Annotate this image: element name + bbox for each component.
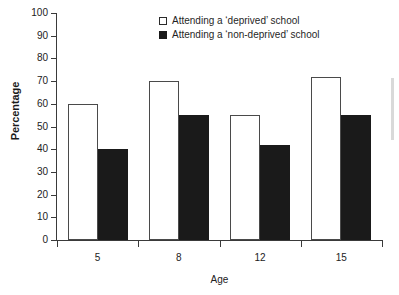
x-axis-tick-label: 8 [149, 252, 209, 263]
bar-15-series1 [311, 77, 341, 240]
x-axis-tick [382, 241, 383, 247]
y-axis-tick-label: 40 [8, 144, 48, 154]
y-axis-tick-label: 0 [8, 235, 48, 245]
legend-item: Attending a ‘deprived’ school [159, 14, 320, 28]
bar-5-series2 [98, 149, 128, 240]
legend-item: Attending a ‘non-deprived’ school [159, 28, 320, 42]
bar-12-series1 [230, 115, 260, 240]
x-axis-tick-label: 15 [311, 252, 371, 263]
y-axis-tick-label: 10 [8, 212, 48, 222]
y-axis-tick-label: 70 [8, 76, 48, 86]
x-axis-tick-label: 12 [230, 252, 290, 263]
bar-15-series2 [341, 115, 371, 240]
x-axis-tick [301, 241, 302, 247]
y-axis-tick-label: 50 [8, 122, 48, 132]
y-axis-tick-label: 80 [8, 53, 48, 63]
x-axis-tick-label: 5 [68, 252, 128, 263]
page-edge-artifact [391, 78, 394, 140]
x-axis-tick [138, 241, 139, 247]
y-axis-tick-label: 90 [8, 31, 48, 41]
plot-area [57, 13, 382, 240]
y-axis-tick-label: 60 [8, 99, 48, 109]
x-axis-tick [57, 241, 58, 247]
bar-12-series2 [260, 145, 290, 240]
chart-legend: Attending a ‘deprived’ schoolAttending a… [159, 14, 320, 42]
y-axis-tick-label: 20 [8, 190, 48, 200]
y-axis-tick-label: 100 [8, 8, 48, 18]
white-square-icon [159, 17, 167, 25]
bar-5-series1 [68, 104, 98, 240]
legend-item-label: Attending a ‘non-deprived’ school [172, 28, 320, 42]
y-axis-tick-label: 30 [8, 167, 48, 177]
bar-8-series2 [179, 115, 209, 240]
bar-chart: Percentage 0102030405060708090100 581215… [0, 0, 399, 295]
x-axis-tick [220, 241, 221, 247]
legend-item-label: Attending a ‘deprived’ school [172, 14, 300, 28]
black-square-icon [159, 31, 167, 39]
bar-8-series1 [149, 81, 179, 240]
x-axis-title: Age [57, 274, 382, 285]
